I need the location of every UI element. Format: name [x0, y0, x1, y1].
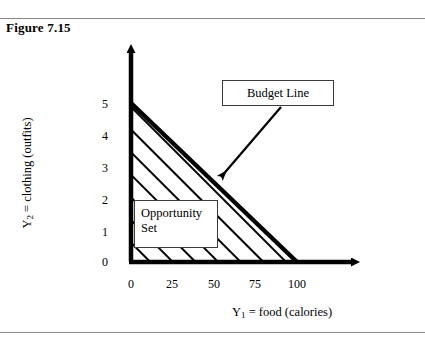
budget-line-callout-label: Budget Line	[247, 86, 309, 100]
x-axis-title-symbol: Y	[232, 305, 241, 319]
x-axis-title: Y1 = food (calories)	[232, 305, 332, 320]
budget-line-callout-arrow	[221, 107, 281, 177]
y-tick-label: 3	[98, 162, 112, 174]
y-axis-title: Y2 = clothing (outfits)	[18, 78, 36, 268]
x-tick-label: 0	[117, 278, 145, 290]
y-tick-label: 5	[98, 98, 112, 110]
budget-line-callout: Budget Line	[222, 80, 334, 106]
x-axis-title-rest: = food (calories)	[246, 305, 333, 319]
opportunity-set-callout-line1: Opportunity	[141, 206, 202, 220]
x-tick-label: 100	[283, 278, 311, 290]
y-axis-title-symbol: Y	[20, 220, 34, 229]
figure-page: Figure 7.15	[0, 0, 425, 341]
x-tick-label: 50	[200, 278, 228, 290]
opportunity-set-callout: Opportunity Set	[134, 200, 218, 248]
chart-area: 5 4 3 2 1 0 0 25 50 75 100 Y2 = clothing…	[0, 0, 425, 341]
y-tick-label: 2	[98, 194, 112, 206]
bottom-divider	[0, 332, 425, 333]
y-axis-title-rest: = clothing (outfits)	[20, 117, 34, 215]
y-tick-label: 4	[98, 130, 112, 142]
x-tick-label: 75	[241, 278, 269, 290]
y-axis-title-subscript: 2	[25, 215, 35, 220]
y-tick-label: 0	[98, 256, 112, 268]
x-tick-label: 25	[158, 278, 186, 290]
opportunity-set-callout-line2: Set	[141, 221, 217, 236]
y-tick-label: 1	[98, 226, 112, 238]
